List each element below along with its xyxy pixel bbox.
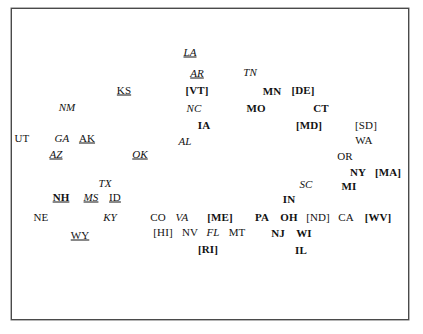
state-label-wv: [WV] <box>365 212 392 223</box>
state-label-va: VA <box>176 212 189 223</box>
state-label-al: AL <box>178 136 191 147</box>
state-label-ar: AR <box>190 68 204 79</box>
state-label-oh: OH <box>280 212 297 223</box>
state-label-mi: MI <box>342 181 357 192</box>
state-label-ok: OK <box>132 149 147 160</box>
state-label-nh: NH <box>53 192 70 203</box>
state-label-vt: [VT] <box>185 85 208 96</box>
state-label-nd: [ND] <box>306 212 330 223</box>
state-label-nm: NM <box>59 102 76 113</box>
state-label-hi: [HI] <box>153 227 172 238</box>
state-label-il: IL <box>295 245 307 256</box>
state-label-ky: KY <box>103 212 117 223</box>
scatter-plot-figure: LAARTNKS[VT]MN[DE]NMNCMOCTIA[MD][SD]UTGA… <box>0 0 423 334</box>
state-label-ne: NE <box>34 212 49 223</box>
state-label-ut: UT <box>15 133 30 144</box>
state-label-nc: NC <box>187 103 202 114</box>
state-label-sd: [SD] <box>355 120 377 131</box>
state-label-ia: IA <box>198 120 210 131</box>
state-label-tn: TN <box>243 67 257 78</box>
state-label-pa: PA <box>255 212 269 223</box>
state-label-or: OR <box>337 151 352 162</box>
state-label-la: LA <box>183 47 196 58</box>
state-label-de: [DE] <box>291 85 314 96</box>
state-label-mt: MT <box>229 227 246 238</box>
state-label-wi: WI <box>296 228 311 239</box>
state-label-ca: CA <box>338 212 353 223</box>
state-label-mo: MO <box>246 103 265 114</box>
state-label-ma: [MA] <box>375 167 401 178</box>
state-label-ga: GA <box>55 133 70 144</box>
state-label-ny: NY <box>350 167 366 178</box>
state-label-wy: WY <box>71 230 90 241</box>
state-label-tx: TX <box>98 178 111 189</box>
plot-frame-border: LAARTNKS[VT]MN[DE]NMNCMOCTIA[MD][SD]UTGA… <box>11 8 409 320</box>
state-label-ak: AK <box>79 133 95 144</box>
state-label-sc: SC <box>299 179 312 190</box>
state-label-me: [ME] <box>207 212 232 223</box>
state-label-id: ID <box>109 192 121 203</box>
state-label-fl: FL <box>206 227 219 238</box>
plot-area: LAARTNKS[VT]MN[DE]NMNCMOCTIA[MD][SD]UTGA… <box>12 9 408 319</box>
state-label-wa: WA <box>355 135 372 146</box>
state-label-co: CO <box>150 212 165 223</box>
state-label-az: AZ <box>49 149 62 160</box>
state-label-md: [MD] <box>296 120 322 131</box>
state-label-ms: MS <box>84 192 99 203</box>
state-label-ct: CT <box>313 103 328 114</box>
state-label-mn: MN <box>263 86 282 97</box>
state-label-nv: NV <box>182 227 198 238</box>
state-label-in: IN <box>283 194 295 205</box>
state-label-ks: KS <box>117 85 131 96</box>
state-label-ri: [RI] <box>198 244 218 255</box>
state-label-nj: NJ <box>271 228 285 239</box>
